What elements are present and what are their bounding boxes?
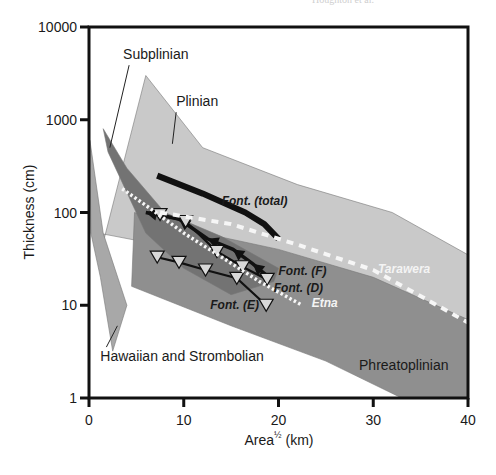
series-label-font-d: Font. (D) [274,281,323,295]
leader-line-subplinian [110,65,129,148]
x-tick-label: 10 [176,412,192,428]
region-label-plinian: Plinian [176,93,218,109]
x-axis-title: Area½ (km) [245,430,314,448]
y-tick-label: 10 [61,297,77,313]
y-axis: 110100100010000 [38,19,89,406]
x-tick-label: 20 [271,412,287,428]
y-tick-label: 100 [54,205,78,221]
y-tick-label: 1000 [46,112,77,128]
chart: SubplinianPlinianHawaiian and Strombolia… [0,0,496,475]
series-label-tarawera: Tarawera [378,262,431,276]
region-label-phreatoplinian: Phreatoplinian [359,357,449,373]
series-label-etna: Etna [312,296,338,310]
region-label-hawaiian-and-strombolian: Hawaiian and Strombolian [100,348,263,364]
y-tick-label: 1 [69,390,77,406]
series-label-font-e: Font. (E) [210,298,259,312]
region-label-subplinian: Subplinian [123,46,188,62]
y-tick-label: 10000 [38,19,77,35]
y-axis-title: Thickness (cm) [21,165,37,260]
x-tick-label: 40 [460,412,476,428]
x-tick-label: 0 [85,412,93,428]
series-label-font-f: Font. (F) [279,264,327,278]
series-label-font-total: Font. (total) [222,194,288,208]
x-axis: 010203040 [85,398,476,428]
x-tick-label: 30 [365,412,381,428]
